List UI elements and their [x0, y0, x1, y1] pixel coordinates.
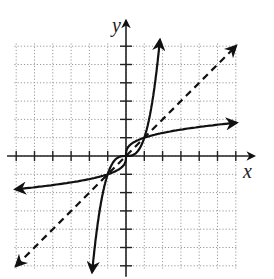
x-axis-label: x	[243, 160, 252, 183]
graph-plot	[0, 0, 274, 279]
y-axis-label: y	[112, 14, 121, 37]
